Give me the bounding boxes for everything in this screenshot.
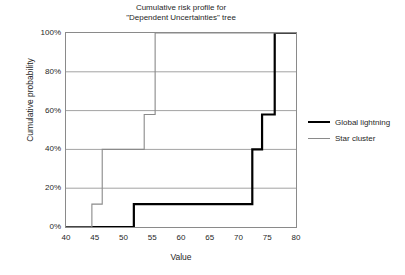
plot-canvas [66, 33, 296, 227]
series-line [66, 33, 296, 227]
chart-title: Cumulative risk profile for "Dependent U… [65, 3, 297, 23]
y-tick-label: 80% [31, 68, 61, 76]
y-axis-label: Cumulative probability [25, 30, 35, 170]
plot-area [65, 32, 297, 228]
series-lines [66, 33, 296, 227]
x-tick-label: 70 [224, 233, 254, 242]
x-axis-tick-labels: 404550556065707580 [65, 233, 297, 245]
legend-swatch-icon-star-cluster [308, 138, 330, 139]
y-tick-label: 20% [31, 184, 61, 192]
x-tick-label: 75 [252, 233, 282, 242]
x-tick-label: 40 [51, 233, 81, 242]
x-tick-label: 55 [137, 233, 167, 242]
x-tick-label: 80 [281, 233, 311, 242]
x-tick-label: 60 [166, 233, 196, 242]
x-axis-label: Value [65, 252, 297, 262]
y-tick-label: 40% [31, 145, 61, 153]
chart-figure: Cumulative risk profile for "Dependent U… [0, 0, 405, 275]
x-tick-label: 45 [80, 233, 110, 242]
chart-title-line-1: Cumulative risk profile for [65, 3, 297, 13]
legend-swatch-icon-global-lightning [308, 121, 330, 123]
plot-inner [66, 33, 296, 227]
legend-label-global-lightning: Global lightning [335, 118, 390, 127]
legend-item-star-cluster: Star cluster [308, 130, 403, 146]
chart-legend: Global lightning Star cluster [308, 114, 403, 146]
chart-title-line-2: "Dependent Uncertainties" tree [65, 13, 297, 23]
y-tick-label: 0% [31, 223, 61, 231]
x-tick-label: 50 [109, 233, 139, 242]
y-tick-label: 100% [31, 29, 61, 37]
y-tick-label: 60% [31, 107, 61, 115]
legend-item-global-lightning: Global lightning [308, 114, 403, 130]
legend-label-star-cluster: Star cluster [335, 134, 375, 143]
x-tick-label: 65 [195, 233, 225, 242]
